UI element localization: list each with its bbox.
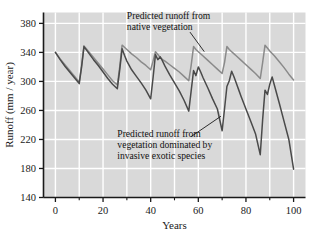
x-tick-label: 60 <box>193 205 204 216</box>
y-tick-label: 340 <box>20 47 36 58</box>
runoff-chart-figure: 140180220260300340380 020406080100 Predi… <box>0 0 316 232</box>
y-tick-label: 180 <box>20 163 36 174</box>
annotation-line: native vegetation <box>127 21 193 32</box>
y-tick-label: 380 <box>20 18 36 29</box>
y-tick-label: 140 <box>20 192 36 203</box>
annotation-line: invasive exotic species <box>117 150 205 161</box>
x-tick-label: 20 <box>98 205 109 216</box>
annotation-line: Predicted runoff from <box>127 10 211 21</box>
y-tick-label: 220 <box>20 134 36 145</box>
chart-canvas: 140180220260300340380 020406080100 Predi… <box>0 0 316 232</box>
y-tick-label: 300 <box>20 76 36 87</box>
annotation-invasive-label: Predicted runoff fromvegetation dominate… <box>117 128 212 161</box>
x-tick-label: 100 <box>286 205 302 216</box>
x-tick-label: 40 <box>145 205 156 216</box>
y-axis-title: Runoff (mm / year) <box>3 62 16 148</box>
x-tick-label: 80 <box>241 205 252 216</box>
annotation-line: Predicted runoff from <box>117 128 201 139</box>
x-axis-title: Years <box>162 219 187 231</box>
annotation-line: vegetation dominated by <box>117 139 212 150</box>
x-tick-label: 0 <box>53 205 58 216</box>
y-tick-label: 260 <box>20 105 36 116</box>
